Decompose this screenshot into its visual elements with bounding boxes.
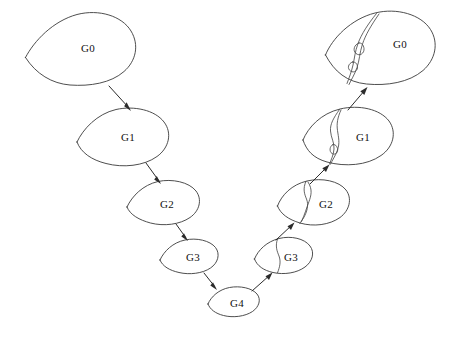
coarsening-branch: G0 G1 G2 G3 <box>26 13 219 274</box>
arrow-left-g0-g1 <box>109 86 131 111</box>
arrow-left-g1-g2 <box>146 163 161 184</box>
arrow-head <box>154 176 161 184</box>
blob-bottom-g4[interactable]: G4 <box>208 287 259 317</box>
blob-left-g0[interactable]: G0 <box>26 13 136 86</box>
figure-canvas: G0 G1 G2 G3 G4 <box>0 0 453 337</box>
arrow-head <box>210 282 217 290</box>
blob-label-left-g3: G3 <box>186 251 200 263</box>
interface-loop-right-g0-upper <box>354 43 364 55</box>
interface-curve-right-g2-b <box>302 182 312 222</box>
arrow-right-g1-g0 <box>348 87 368 110</box>
blob-label-right-g2: G2 <box>319 198 333 210</box>
blob-right-g3[interactable]: G3 <box>255 237 313 273</box>
blob-label-left-g1: G1 <box>121 131 135 143</box>
arrow-group <box>109 86 368 291</box>
blob-left-g1[interactable]: G1 <box>77 108 169 166</box>
arrow-right-g2-g1 <box>310 165 330 185</box>
arrow-head <box>266 273 273 281</box>
blob-label-left-g0: G0 <box>81 42 95 54</box>
blob-outline-right-g1 <box>303 107 393 164</box>
blob-outline-right-g2 <box>278 180 350 225</box>
blob-left-g3[interactable]: G3 <box>160 239 218 274</box>
blob-right-g1[interactable]: G1 <box>303 107 393 164</box>
blob-left-g2[interactable]: G2 <box>127 180 199 224</box>
blob-label-bottom-g4: G4 <box>230 297 244 309</box>
blob-outline-right-g0 <box>326 11 436 84</box>
multigrid-v-cycle-diagram: G0 G1 G2 G3 G4 <box>0 0 453 337</box>
blob-label-left-g2: G2 <box>160 198 174 210</box>
blob-label-right-g0: G0 <box>393 38 407 50</box>
arrow-right-g4-g3 <box>252 273 273 292</box>
blob-label-right-g3: G3 <box>284 251 298 263</box>
blob-label-right-g1: G1 <box>356 131 370 143</box>
interface-curve-right-g3 <box>276 239 280 273</box>
blob-right-g0[interactable]: G0 <box>326 11 436 84</box>
blob-right-g2[interactable]: G2 <box>278 180 350 225</box>
arrow-left-g2-g3 <box>176 224 188 241</box>
arrow-left-g3-g4 <box>204 273 217 290</box>
